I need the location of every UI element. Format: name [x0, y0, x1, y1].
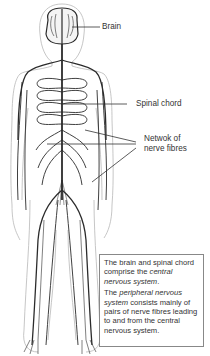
caption-paragraph-cns: The brain and spinal chord comprise the … [104, 258, 200, 286]
brain-icon [46, 8, 78, 44]
nerve-network-label-line2: nerve fibres [144, 144, 187, 154]
caption-text: . [157, 277, 159, 286]
caption-paragraph-pns: The peripheral nervous system consists m… [104, 288, 200, 335]
nerve-network [17, 44, 106, 354]
spinal-cord-label: Spinal chord [136, 99, 182, 109]
leader-lines [47, 27, 136, 182]
brain-label: Brain [102, 22, 121, 32]
caption-box: The brain and spinal chord comprise the … [99, 254, 204, 347]
nerve-network-label-line1: Netwok of [144, 134, 180, 144]
caption-text: The [104, 288, 119, 297]
